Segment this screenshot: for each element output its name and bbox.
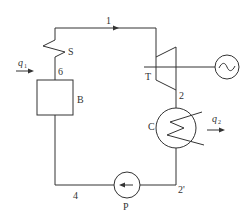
condenser-coil-icon	[167, 112, 204, 145]
flow-arrow-1-icon	[113, 26, 119, 31]
heat-output-symbol: q	[212, 113, 217, 124]
state-point-2: 2	[179, 90, 184, 101]
state-point-4: 4	[73, 190, 78, 201]
pipe-condenser-to-pump	[140, 148, 176, 185]
state-point-2-prime: 2'	[178, 184, 185, 195]
condenser-circle	[156, 108, 196, 148]
heat-input-symbol: q	[18, 57, 23, 68]
pump-label: P	[123, 201, 129, 212]
turbine-body	[156, 47, 176, 90]
heat-input-arrow-icon	[28, 69, 34, 74]
generator-ac-icon	[219, 63, 235, 70]
boiler-label: B	[77, 94, 84, 105]
state-point-1: 1	[106, 15, 111, 26]
pipe-pump-to-boiler	[55, 115, 114, 185]
heat-output-arrow-icon	[219, 128, 225, 133]
boiler-box	[37, 80, 73, 115]
heat-input-subscript: 1	[24, 63, 27, 69]
state-point-6: 6	[58, 66, 63, 77]
heat-output-subscript: 2	[218, 119, 221, 125]
pump-direction-arrow-icon	[119, 183, 125, 188]
turbine-label: T	[145, 71, 151, 82]
superheater-label: S	[68, 46, 74, 57]
condenser-label: C	[148, 121, 155, 132]
rankine-cycle-diagram: 1 S 6 q 1 B 4 P 2' T 2 C q 2	[0, 0, 241, 224]
